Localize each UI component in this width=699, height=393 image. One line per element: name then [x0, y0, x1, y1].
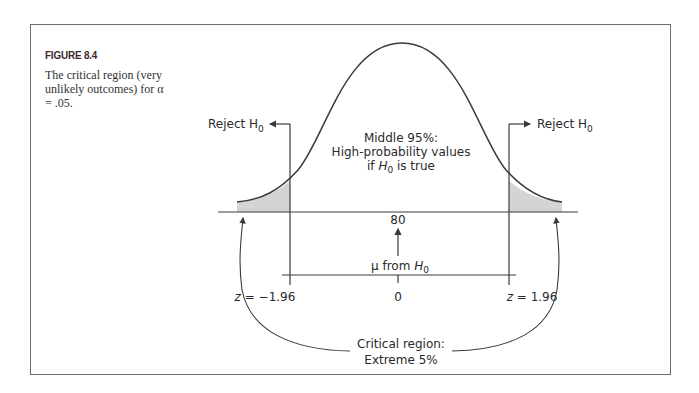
middle-label-line3: if H0 is true [367, 159, 435, 175]
mu-from-h0-label: μ from H0 [371, 259, 429, 275]
right-tail-shade [509, 181, 562, 212]
middle-label-line1: Middle 95%: [364, 131, 438, 145]
reject-left-label: Reject H0 [208, 117, 264, 134]
critical-region-diagram: Reject H0 Reject H0 Middle 95%: High-pro… [0, 0, 699, 393]
critical-region-label-line2: Extreme 5% [364, 353, 437, 367]
reject-right-label: Reject H0 [537, 117, 593, 134]
z-right-label: z = 1.96 [506, 290, 558, 304]
critical-region-label-line1: Critical region: [357, 337, 445, 351]
critical-right-arrow [452, 218, 559, 351]
z-center-label: 0 [394, 290, 402, 304]
critical-left-arrow [240, 218, 350, 351]
normal-curve [237, 43, 562, 202]
mean-value-label: 80 [390, 213, 405, 227]
middle-label-line2: High-probability values [332, 145, 471, 159]
